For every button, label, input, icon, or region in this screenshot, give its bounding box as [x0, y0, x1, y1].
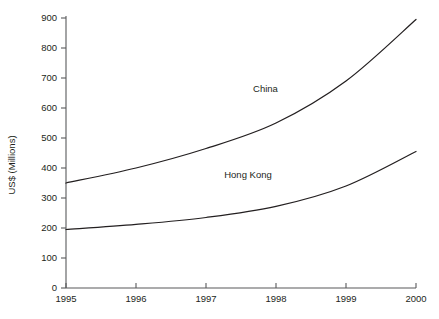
line-chart: US$ (Millions) 900 800 700 600 500 400 3… — [0, 0, 439, 319]
series-label-china: China — [253, 83, 279, 94]
y-tick-label: 700 — [41, 72, 57, 83]
series-line-china — [66, 20, 416, 184]
y-tick-label: 800 — [41, 42, 57, 53]
series-label-hong-kong: Hong Kong — [224, 169, 272, 180]
y-axis-tick-labels: 900 800 700 600 500 400 300 200 100 0 — [41, 12, 57, 293]
y-tick-label: 200 — [41, 222, 57, 233]
x-axis-ticks — [66, 283, 416, 288]
y-axis-title: US$ (Millions) — [6, 135, 17, 194]
y-tick-label: 400 — [41, 162, 57, 173]
x-tick-label: 1995 — [55, 293, 76, 304]
x-tick-label: 2000 — [405, 293, 426, 304]
y-tick-label: 900 — [41, 12, 57, 23]
x-tick-label: 1996 — [125, 293, 146, 304]
x-tick-label: 1997 — [195, 293, 216, 304]
y-axis-ticks — [61, 18, 66, 288]
series-line-hong-kong — [66, 152, 416, 230]
x-axis-tick-labels: 1995 1996 1997 1998 1999 2000 — [55, 293, 426, 304]
x-tick-label: 1999 — [335, 293, 356, 304]
chart-container: US$ (Millions) 900 800 700 600 500 400 3… — [0, 0, 439, 319]
y-tick-label: 0 — [52, 282, 57, 293]
y-tick-label: 600 — [41, 102, 57, 113]
y-tick-label: 500 — [41, 132, 57, 143]
y-tick-label: 300 — [41, 192, 57, 203]
y-tick-label: 100 — [41, 252, 57, 263]
x-tick-label: 1998 — [265, 293, 286, 304]
